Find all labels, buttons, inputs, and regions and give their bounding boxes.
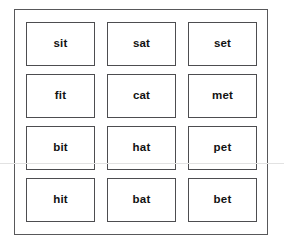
- word-card-label: hat: [133, 142, 151, 154]
- word-card[interactable]: cat: [107, 74, 176, 118]
- word-card-label: hit: [53, 194, 68, 206]
- word-card-label: fit: [55, 90, 66, 102]
- word-card-label: pet: [214, 142, 232, 154]
- word-card[interactable]: fit: [26, 74, 95, 118]
- word-card-label: sat: [133, 38, 150, 50]
- word-card-sheet: sit sat set fit cat met bit hat pet hit: [0, 0, 284, 249]
- word-card[interactable]: bet: [188, 178, 257, 222]
- word-card[interactable]: set: [188, 22, 257, 66]
- word-card-label: bit: [53, 142, 68, 154]
- word-card[interactable]: hit: [26, 178, 95, 222]
- word-card[interactable]: met: [188, 74, 257, 118]
- word-card[interactable]: bat: [107, 178, 176, 222]
- word-card-label: sit: [53, 38, 67, 50]
- word-card[interactable]: sit: [26, 22, 95, 66]
- word-card-label: bat: [133, 194, 151, 206]
- scan-artifact-line: [0, 163, 284, 164]
- word-card-label: cat: [133, 90, 150, 102]
- word-card-label: set: [214, 38, 231, 50]
- word-card-label: bet: [214, 194, 232, 206]
- word-card-label: met: [212, 90, 233, 102]
- word-card[interactable]: sat: [107, 22, 176, 66]
- word-card-grid: sit sat set fit cat met bit hat pet hit: [26, 22, 257, 220]
